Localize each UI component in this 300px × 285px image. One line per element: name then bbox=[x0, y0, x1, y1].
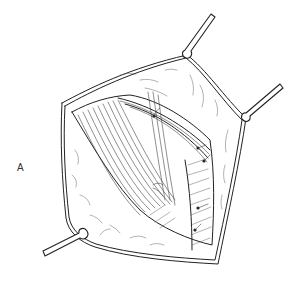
skin-flap-outline bbox=[61, 55, 246, 264]
illustration-drawing bbox=[0, 0, 300, 285]
panel-label: A bbox=[17, 163, 24, 173]
exposed-field bbox=[72, 95, 214, 245]
hatched-muscle-right bbox=[150, 159, 211, 250]
top-retractor bbox=[182, 14, 215, 58]
tendon-band bbox=[118, 98, 210, 162]
skin-texture bbox=[72, 69, 228, 245]
surgical-illustration: A bbox=[0, 0, 300, 285]
right-retractor bbox=[242, 84, 283, 121]
lower-left-retractor bbox=[43, 228, 88, 256]
